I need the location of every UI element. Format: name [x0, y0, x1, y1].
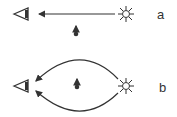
- panel-label-a: a: [157, 7, 164, 22]
- light-ray-upper: [36, 60, 118, 81]
- panel-label-b: b: [159, 80, 166, 95]
- panel-a: [14, 6, 134, 36]
- object-arrow-icon: [75, 79, 80, 89]
- eye-icon: [14, 8, 28, 20]
- diagram: a b: [0, 0, 177, 117]
- diagram-canvas: [0, 0, 177, 117]
- star-icon: [118, 6, 134, 22]
- star-icon: [118, 78, 134, 94]
- panel-b: [14, 60, 134, 111]
- light-ray-lower: [36, 91, 118, 111]
- object-arrow-icon: [74, 26, 79, 36]
- eye-icon: [14, 80, 28, 92]
